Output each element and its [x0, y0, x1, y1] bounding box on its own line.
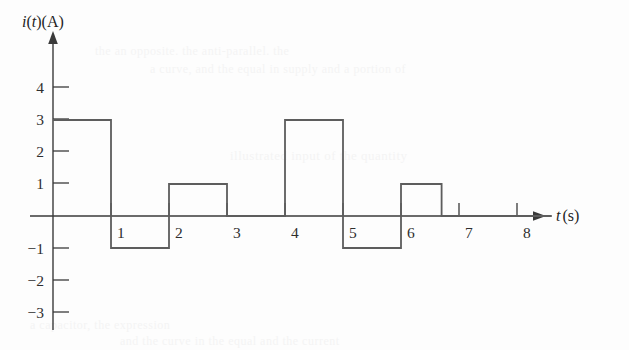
y-tick-label-minus-2: −2	[28, 272, 45, 289]
x-tick-label-5: 5	[349, 224, 357, 241]
x-tick-label-6: 6	[407, 224, 415, 241]
y-axis-arrow-icon	[48, 31, 58, 44]
x-tick-label-8: 8	[523, 224, 531, 241]
y-tick-labels: 4 3 2 1 −1 −2 −3	[28, 79, 45, 321]
x-tick-marks	[111, 203, 517, 216]
y-tick-label-4: 4	[36, 79, 44, 96]
x-tick-label-3: 3	[233, 224, 241, 241]
x-axis-title-t: t	[556, 207, 561, 224]
y-tick-label-minus-3: −3	[28, 304, 45, 321]
x-tick-label-7: 7	[465, 224, 473, 241]
waveform-chart-svg: 4 3 2 1 −1 −2 −3 1 2 3 4 5 6 7 8	[0, 0, 629, 350]
x-axis-title: t(s)	[556, 207, 579, 225]
y-tick-label-minus-1: −1	[28, 240, 45, 257]
current-waveform-trace	[53, 120, 552, 248]
y-axis-title: i(t)(A)	[22, 13, 64, 31]
y-tick-label-1: 1	[36, 175, 44, 192]
y-tick-label-3: 3	[36, 111, 44, 128]
y-tick-label-2: 2	[36, 143, 44, 160]
x-axis-title-unit: (s)	[562, 207, 579, 225]
x-tick-label-2: 2	[175, 224, 183, 241]
x-tick-labels: 1 2 3 4 5 6 7 8	[117, 224, 531, 241]
x-tick-label-4: 4	[291, 224, 299, 241]
y-axis-title-unit: (A)	[42, 13, 64, 31]
current-waveform-figure: the an opposite. the anti-parallel. thea…	[0, 0, 629, 350]
axes-group	[30, 31, 546, 330]
x-tick-label-1: 1	[117, 224, 125, 241]
